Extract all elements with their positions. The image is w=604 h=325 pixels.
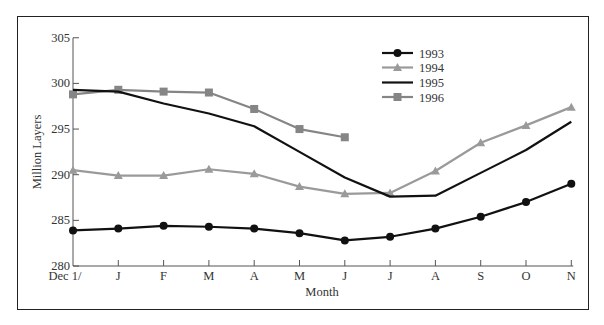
square-marker [296,125,304,133]
x-axis-title: Month [305,285,339,299]
y-tick-label: 300 [51,76,70,90]
legend-label: 1996 [419,91,444,105]
square-marker [160,88,168,96]
axes: 280285290295300305Dec 1/JFMAMJJASON [49,31,576,283]
x-tick-label: J [116,269,121,283]
triangle-marker [431,167,440,175]
circle-marker [160,222,168,230]
legend-label: 1995 [419,76,444,90]
y-tick-label: 305 [51,31,70,45]
x-tick-label: A [431,269,440,283]
square-marker [394,93,402,101]
circle-marker [296,229,304,237]
x-tick-label: J [342,269,347,283]
y-tick-label: 285 [51,213,70,227]
y-tick-label: 290 [51,168,70,182]
legend: 1993199419951996 [382,47,445,105]
circle-marker [567,180,575,188]
circle-marker [69,226,77,234]
x-tick-label: M [203,269,214,283]
series-line [73,90,571,197]
series-group [69,86,576,245]
circle-marker [250,225,258,233]
x-tick-label: A [250,269,259,283]
x-tick-label: O [521,269,530,283]
x-tick-label: S [477,269,484,283]
series-1995 [73,90,571,197]
legend-label: 1994 [419,61,445,75]
y-axis-title: Million Layers [30,115,44,190]
x-tick-label: J [388,269,393,283]
circle-marker [477,213,485,221]
x-tick-label: M [294,269,305,283]
square-marker [341,133,349,141]
circle-marker [341,236,349,244]
triangle-marker [567,103,576,111]
legend-item-1996: 1996 [382,91,444,105]
series-line [73,184,571,241]
square-marker [250,105,258,113]
circle-marker [431,225,439,233]
line-chart: 280285290295300305Dec 1/JFMAMJJASON 1993… [0,0,604,325]
y-tick-label: 295 [51,122,70,136]
legend-item-1995: 1995 [382,76,444,90]
circle-marker [386,233,394,241]
x-tick-label: Dec 1/ [49,269,82,283]
x-tick-label: N [567,269,576,283]
x-tick-label: F [160,269,167,283]
square-marker [69,90,77,98]
legend-label: 1993 [419,47,444,61]
legend-item-1993: 1993 [382,47,444,61]
legend-item-1994: 1994 [382,61,445,75]
series-1994 [69,103,576,198]
circle-marker [205,223,213,231]
circle-marker [522,198,530,206]
circle-marker [114,225,122,233]
square-marker [205,89,213,97]
circle-marker [394,49,402,57]
series-line [73,107,571,194]
